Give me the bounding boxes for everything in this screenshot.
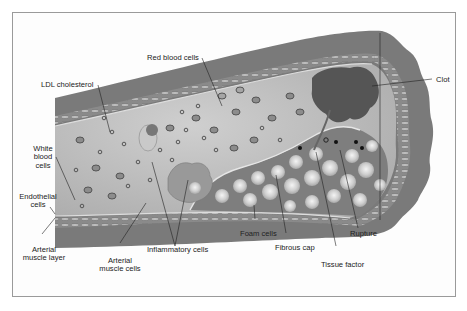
- label-arterial-muscle-cells: Arterial muscle cells: [96, 257, 144, 274]
- label-clot: Clot: [436, 76, 450, 84]
- label-inflammatory-cells: Inflammatory cells: [147, 246, 208, 254]
- label-line: muscle layer: [20, 254, 68, 262]
- label-tissue-factor: Tissue factor: [321, 261, 364, 269]
- label-arterial-muscle-layer: Arterial muscle layer: [20, 246, 68, 263]
- label-endothelial-cells: Endothelial cells: [16, 193, 60, 210]
- label-ldl-cholesterol: LDL cholesterol: [41, 81, 93, 89]
- artery-illustration: [0, 0, 467, 311]
- label-rupture: Rupture: [350, 230, 377, 238]
- inflammatory-cells: [168, 163, 212, 203]
- label-line: muscle cells: [96, 265, 144, 273]
- label-red-blood-cells: Red blood cells: [147, 54, 199, 62]
- label-foam-cells: Foam cells: [240, 230, 277, 238]
- label-fibrous-cap: Fibrous cap: [275, 244, 315, 252]
- label-white-blood-cells: White blood cells: [30, 145, 56, 170]
- label-line: cells: [16, 201, 60, 209]
- label-line: cells: [30, 162, 56, 170]
